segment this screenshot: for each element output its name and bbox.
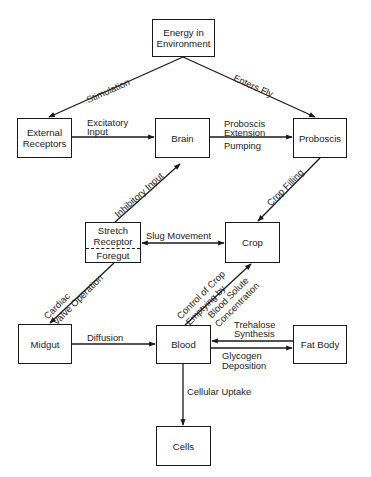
node-label: Energy in <box>163 27 204 38</box>
node-label: Crop <box>242 237 263 248</box>
dashed-divider <box>86 248 140 249</box>
edge-label-deposition: Deposition <box>222 361 266 372</box>
node-label-stretch: Stretch <box>86 225 140 236</box>
node-energy-in-environment: Energy in Environment <box>152 19 215 57</box>
edge-label-pumping: Pumping <box>224 141 261 152</box>
edge-label-diffusion: Diffusion <box>87 333 123 344</box>
node-fat-body: Fat Body <box>293 325 347 364</box>
edge-label-cellular-uptake: Cellular Uptake <box>187 387 251 398</box>
node-external-receptors: External Receptors <box>17 118 72 158</box>
node-label: Receptors <box>23 138 67 149</box>
node-label: Proboscis <box>299 133 341 144</box>
node-label: Fat Body <box>301 339 339 350</box>
node-label-foregut: Foregut <box>86 250 140 261</box>
node-proboscis: Proboscis <box>293 118 347 158</box>
edge-label-slug-movement: Slug Movement <box>146 231 211 242</box>
flow-diagram: Energy in Environment External Receptors… <box>0 0 371 477</box>
node-brain: Brain <box>155 118 210 158</box>
node-crop: Crop <box>225 222 280 263</box>
node-midgut: Midgut <box>18 324 72 364</box>
edge-label-synthesis: Synthesis <box>234 329 275 340</box>
node-label: Cells <box>173 441 194 452</box>
edge-label-input: Input <box>87 127 108 138</box>
node-blood: Blood <box>156 325 211 364</box>
node-label: Blood <box>171 339 196 350</box>
node-label: External <box>27 127 62 138</box>
node-label-receptor: Receptor <box>86 236 140 247</box>
node-stretch-receptor-foregut: Stretch Receptor Foregut <box>85 222 141 263</box>
edge-label-extension: Extension <box>224 128 265 139</box>
node-label: Brain <box>171 133 193 144</box>
node-cells: Cells <box>156 426 211 466</box>
node-label: Environment <box>157 38 211 49</box>
node-label: Midgut <box>31 339 60 350</box>
